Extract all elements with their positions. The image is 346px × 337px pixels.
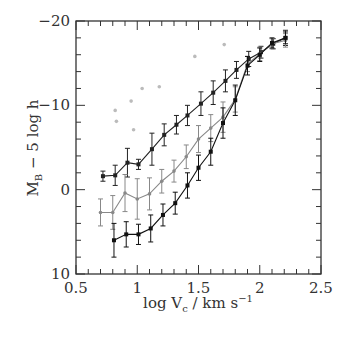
y-tick-label: 0 [60,181,70,199]
data-point [209,126,213,130]
scatter-point [193,55,197,59]
y-tick-labels: −20−10010 [38,12,70,283]
y-tick-label: 10 [51,265,70,283]
data-point [199,102,203,106]
x-tick-label: 2.5 [309,279,333,297]
scatter-point [129,99,133,103]
chart: 0.511.522.5 −20−10010 log Vc / km s−1 MB… [0,0,346,337]
data-point [197,166,201,170]
x-axis-label: log Vc / km s−1 [143,293,253,314]
data-point [113,173,117,177]
data-point [283,36,287,40]
data-point [211,91,215,95]
data-point [124,232,128,236]
data-point [185,113,189,117]
data-point [233,98,237,102]
data-point [123,191,127,195]
data-point [160,179,164,183]
data-point [173,201,177,205]
data-point [136,162,140,166]
series-middle [98,34,288,230]
y-tick-label: −10 [38,96,70,114]
data-point [221,121,225,125]
series-line [101,40,286,212]
data-point [234,68,238,72]
data-point [197,137,201,141]
data-point [246,64,250,68]
x-tick-label: 2 [255,279,265,297]
data-point [112,238,116,242]
data-point [125,161,129,165]
data-point [172,169,176,173]
data-point [161,213,165,217]
scatter-point [140,87,144,91]
scatter-point [115,120,119,124]
scatter-point [222,43,226,47]
data-point [258,53,262,57]
data-point [209,150,213,154]
data-point [149,226,153,230]
y-axis-label: MB − 5 log h [24,99,44,196]
data-point [184,155,188,159]
data-series [98,30,288,257]
faint-scatter-points [113,43,226,132]
data-point [223,79,227,83]
data-point [270,41,274,45]
y-tick-label: −20 [38,12,70,30]
scatter-point [158,85,162,89]
data-point [174,123,178,127]
data-point [136,232,140,236]
data-point [162,133,166,137]
data-point [101,174,105,178]
data-point [185,183,189,187]
data-point [111,211,115,215]
series-lower [111,32,288,257]
data-point [150,147,154,151]
scatter-point [132,128,136,132]
data-point [148,192,152,196]
x-tick-label: 1 [132,279,142,297]
data-point [99,211,103,215]
series-line [103,38,286,176]
data-point [135,197,139,201]
scatter-point [113,109,117,113]
